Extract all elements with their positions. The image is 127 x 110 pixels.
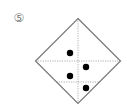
folded-paper-diagram: [0, 0, 127, 110]
punch-hole-dot: [83, 85, 89, 91]
punch-holes: [67, 50, 89, 91]
fold-lines: [36, 19, 121, 104]
punch-hole-dot: [83, 64, 89, 70]
punch-hole-dot: [67, 50, 73, 56]
punch-hole-dot: [67, 73, 73, 79]
